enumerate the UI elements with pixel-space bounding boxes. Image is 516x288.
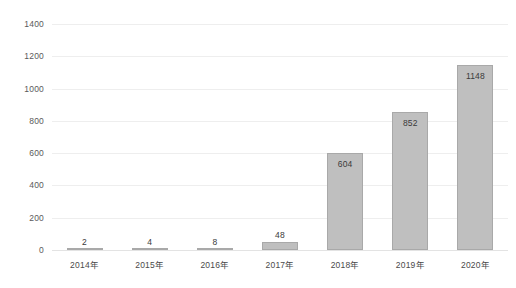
bar[interactable]: [132, 248, 168, 250]
bar-value-label: 48: [275, 230, 285, 240]
bar-value-label: 852: [403, 118, 418, 128]
y-axis-tick-label: 1000: [4, 84, 44, 94]
y-axis-tick-label: 1400: [4, 19, 44, 29]
x-axis-tick-label: 2019年: [378, 258, 443, 270]
bar-column[interactable]: 604: [327, 24, 363, 250]
y-axis-tick-label: 1200: [4, 51, 44, 61]
bar-value-label: 604: [338, 159, 353, 169]
x-axis-tick-label: 2016年: [182, 258, 247, 270]
bar-column[interactable]: 1148: [457, 24, 493, 250]
y-axis-tick-label: 0: [4, 245, 44, 255]
x-axis-tick-label: 2015年: [117, 258, 182, 270]
bar-column[interactable]: 8: [197, 24, 233, 250]
bar-value-label: 2: [82, 237, 87, 247]
gridline-0: [52, 250, 508, 251]
bar-value-label: 1148: [466, 71, 485, 81]
y-axis-tick-label: 200: [4, 213, 44, 223]
bar-value-label: 8: [212, 237, 217, 247]
x-axis-tick-label: 2020年: [443, 258, 508, 270]
y-axis-tick-label: 400: [4, 180, 44, 190]
bar-column[interactable]: 2: [67, 24, 103, 250]
bar[interactable]: [262, 242, 298, 250]
x-axis-tick-label: 2017年: [247, 258, 312, 270]
bar[interactable]: [392, 112, 428, 250]
y-axis-tick-label: 600: [4, 148, 44, 158]
x-axis-tick-label: 2018年: [313, 258, 378, 270]
bar-value-label: 4: [147, 237, 152, 247]
bar[interactable]: [67, 248, 103, 250]
bar-series: 248486048521148: [52, 24, 508, 250]
bar-chart: 248486048521148 2014年2015年2016年2017年2018…: [0, 0, 516, 288]
bar-column[interactable]: 852: [392, 24, 428, 250]
bar[interactable]: [457, 65, 493, 250]
bar[interactable]: [197, 248, 233, 250]
bar-column[interactable]: 4: [132, 24, 168, 250]
x-axis-tick-label: 2014年: [52, 258, 117, 270]
bar-column[interactable]: 48: [262, 24, 298, 250]
y-axis-tick-label: 800: [4, 116, 44, 126]
